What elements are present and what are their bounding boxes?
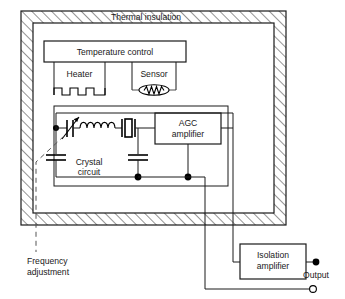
- agc-amplifier-block[interactable]: AGC amplifier: [155, 113, 221, 144]
- temperature-control-block[interactable]: Temperature control: [44, 41, 186, 62]
- thermal-insulation-label: Thermal insulation: [98, 8, 194, 22]
- agc-amplifier-label-line2: amplifier: [172, 129, 205, 139]
- crystal-oscillator-diagram: Thermal insulation Temperature control H…: [0, 0, 345, 299]
- thermal-insulation-text: Thermal insulation: [111, 12, 181, 22]
- crystal-circuit-label-line1: Crystal: [76, 157, 103, 167]
- isolation-amplifier-label-line2: amplifier: [257, 261, 290, 271]
- frequency-adjustment-label-line1: Frequency: [27, 256, 68, 266]
- isolation-amplifier-block[interactable]: Isolation amplifier: [240, 244, 306, 279]
- sensor-label: Sensor: [140, 69, 167, 79]
- heater-label: Heater: [67, 69, 93, 79]
- crystal-circuit-label-line2: circuit: [78, 167, 101, 177]
- isolation-amplifier-label-line1: Isolation: [257, 250, 289, 260]
- output-label: Output: [303, 270, 329, 280]
- temperature-control-label: Temperature control: [77, 47, 154, 57]
- agc-amplifier-label-line1: AGC: [179, 118, 198, 128]
- output-terminal-ground[interactable]: [310, 286, 317, 293]
- output-terminal-positive[interactable]: [313, 259, 320, 266]
- frequency-adjustment-label-line2: adjustment: [27, 267, 70, 277]
